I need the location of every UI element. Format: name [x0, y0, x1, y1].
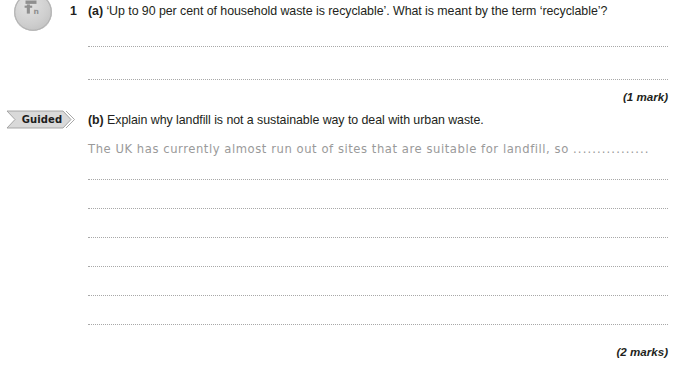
- part-a-text: ‘Up to 90 per cent of household waste is…: [106, 4, 607, 18]
- question-part-a: (a) ‘Up to 90 per cent of household wast…: [88, 4, 607, 18]
- question-number: 1: [70, 4, 77, 18]
- answer-rule[interactable]: [88, 265, 668, 267]
- skill-badge-icon: n: [14, 0, 52, 31]
- marks-label-b: (2 marks): [616, 345, 668, 358]
- guided-answer-text: The UK has currently almost run out of s…: [88, 142, 650, 156]
- part-a-letter: (a): [88, 4, 103, 18]
- answer-rule[interactable]: [88, 236, 668, 238]
- part-b-letter: (b): [88, 113, 104, 127]
- guided-answer-dots: ................: [573, 142, 650, 156]
- answer-rule[interactable]: [88, 323, 668, 325]
- guided-answer-sentence: The UK has currently almost run out of s…: [88, 142, 569, 156]
- question-part-b: (b) Explain why landfill is not a sustai…: [88, 113, 484, 127]
- marks-label-a: (1 mark): [623, 90, 668, 103]
- answer-rule[interactable]: [88, 45, 668, 47]
- part-b-text: Explain why landfill is not a sustainabl…: [107, 113, 484, 127]
- guided-chevron-banner: Guided: [6, 110, 78, 129]
- guided-label: Guided: [6, 110, 78, 129]
- answer-rule[interactable]: [88, 294, 668, 296]
- svg-text:n: n: [33, 7, 38, 16]
- answer-rule[interactable]: [88, 178, 668, 180]
- answer-rule[interactable]: [88, 78, 668, 80]
- answer-rule[interactable]: [88, 207, 668, 209]
